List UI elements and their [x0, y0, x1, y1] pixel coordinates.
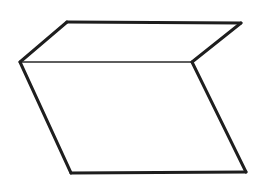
edge-front-left [20, 62, 71, 173]
edge-top-left-diagonal [20, 22, 67, 62]
edge-front-right [192, 62, 246, 172]
edge-top [67, 22, 241, 23]
edge-bottom [71, 172, 246, 173]
folded-parallelogram-diagram [0, 0, 260, 186]
edge-top-right-diagonal [192, 23, 241, 62]
